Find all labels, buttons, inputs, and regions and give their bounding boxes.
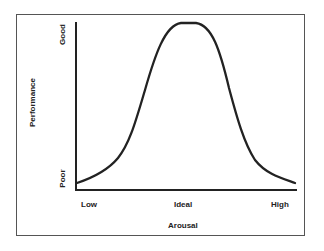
x-tick-high: High bbox=[271, 200, 289, 209]
chart-plot-area bbox=[0, 0, 324, 251]
y-tick-good: Good bbox=[58, 23, 67, 47]
x-tick-low: Low bbox=[81, 200, 97, 209]
x-axis-title: Arousal bbox=[168, 221, 198, 230]
x-tick-ideal: Ideal bbox=[174, 200, 192, 209]
performance-curve bbox=[77, 23, 295, 183]
y-axis-title: Performance bbox=[28, 78, 37, 128]
y-tick-poor: Poor bbox=[58, 168, 67, 190]
